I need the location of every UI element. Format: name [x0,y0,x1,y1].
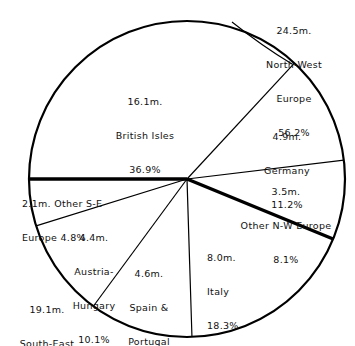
pie-chart-graphic [0,0,355,346]
pie-chart: 24.5m. North-West Europe 56.2% 16.1m. Br… [0,0,355,346]
